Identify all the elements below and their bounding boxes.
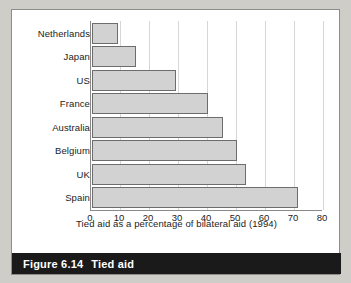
bar-row	[92, 46, 322, 67]
bar-australia	[92, 117, 223, 138]
bar-series	[92, 23, 322, 208]
gridline	[323, 21, 324, 210]
bar-row	[92, 93, 322, 114]
plot-frame	[90, 21, 322, 210]
y-axis-label: Japan	[20, 46, 90, 67]
bar-uk	[92, 164, 246, 185]
bar-japan	[92, 46, 136, 67]
y-axis-label: France	[20, 93, 90, 114]
y-axis-label: Australia	[20, 117, 90, 138]
bar-row	[92, 187, 322, 208]
bar-spain	[92, 187, 298, 208]
y-axis-label: Belgium	[20, 140, 90, 161]
y-axis-label: US	[20, 70, 90, 91]
figure-number: Figure 6.14	[23, 258, 83, 270]
bar-row	[92, 23, 322, 44]
bar-france	[92, 93, 208, 114]
bar-row	[92, 117, 322, 138]
bar-chart: NetherlandsJapanUSFranceAustraliaBelgium…	[12, 10, 341, 236]
y-axis-label: Netherlands	[20, 23, 90, 44]
y-axis-category-labels: NetherlandsJapanUSFranceAustraliaBelgium…	[20, 23, 90, 208]
bar-belgium	[92, 140, 237, 161]
figure-caption-bar: Figure 6.14 Tied aid	[12, 253, 341, 274]
bar-netherlands	[92, 23, 118, 44]
figure-title: Tied aid	[91, 258, 134, 270]
figure-container: NetherlandsJapanUSFranceAustraliaBelgium…	[11, 9, 340, 275]
y-axis-label: Spain	[20, 187, 90, 208]
y-axis-label: UK	[20, 164, 90, 185]
bar-row	[92, 164, 322, 185]
bar-row	[92, 140, 322, 161]
plot-area: 01020304050607080	[90, 21, 322, 211]
bar-row	[92, 70, 322, 91]
x-axis-title: Tied aid as a percentage of bilateral ai…	[12, 218, 341, 229]
bar-us	[92, 70, 176, 91]
x-axis-line	[90, 210, 322, 211]
